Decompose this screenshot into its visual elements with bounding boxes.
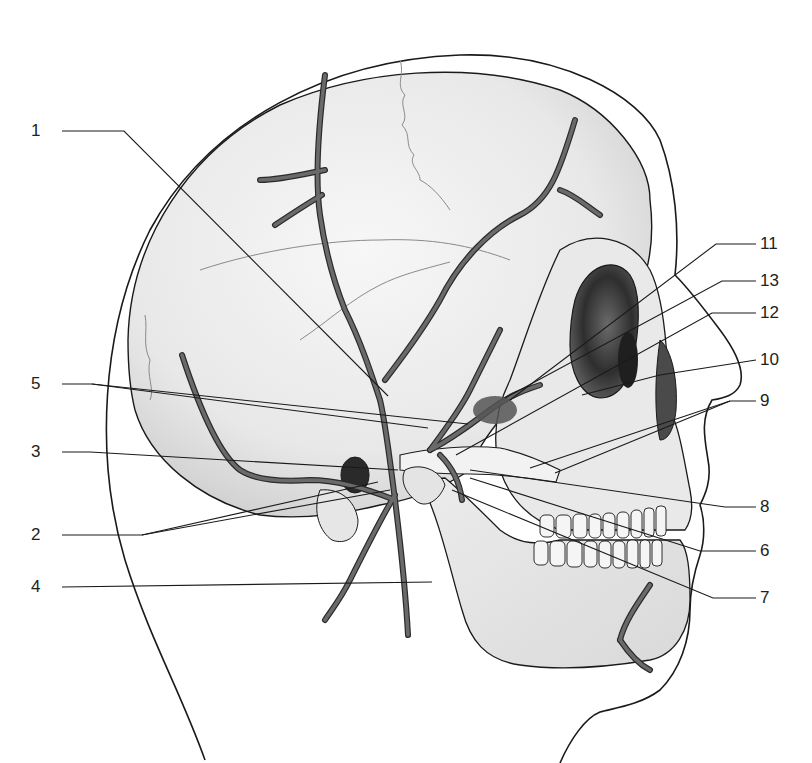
label-7: 7 xyxy=(760,589,769,606)
label-8: 8 xyxy=(760,498,769,515)
skull-illustration xyxy=(0,0,812,763)
anatomy-diagram: 15324111312109867 xyxy=(0,0,812,763)
label-2: 2 xyxy=(31,526,40,543)
label-6: 6 xyxy=(760,542,769,559)
label-12: 12 xyxy=(760,304,779,321)
leader-line-4 xyxy=(62,582,432,587)
label-4: 4 xyxy=(31,578,40,595)
label-1: 1 xyxy=(31,122,40,139)
label-9: 9 xyxy=(760,392,769,409)
label-10: 10 xyxy=(760,351,779,368)
label-3: 3 xyxy=(31,443,40,460)
label-13: 13 xyxy=(760,272,779,289)
label-5: 5 xyxy=(31,375,40,392)
label-11: 11 xyxy=(760,235,778,252)
